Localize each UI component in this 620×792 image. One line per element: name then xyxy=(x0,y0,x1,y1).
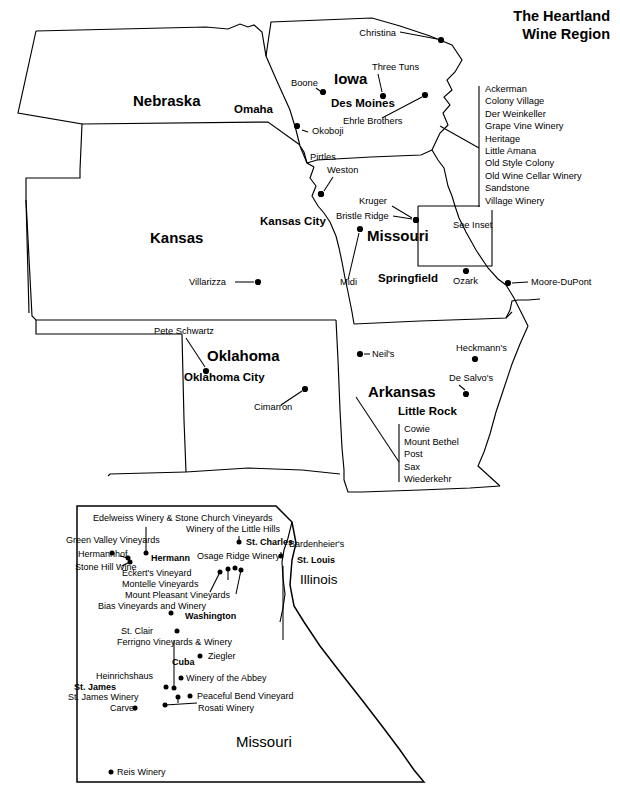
inset-winery-dot-heinrichshaus xyxy=(164,685,169,690)
inset-winery-dot-st-clair xyxy=(175,629,180,634)
winery-label-villarizza: Villarizza xyxy=(189,277,227,287)
winery-dot-weston xyxy=(318,191,324,197)
arkansas-legend-item-wiederkehr: Wiederkehr xyxy=(404,474,452,484)
inset-leader-5 xyxy=(236,570,241,594)
inset-winery-dot-eckert-s-vineyard xyxy=(226,567,231,572)
state-label-oklahoma: Oklahoma xyxy=(207,347,280,364)
inset-winery-label-bias-vineyards-and-winery: Bias Vineyards and Winery xyxy=(98,601,206,611)
see-inset-label: See Inset xyxy=(453,220,493,230)
inset-winery-label-ziegler: Ziegler xyxy=(208,651,236,661)
city-label-little-rock: Little Rock xyxy=(398,405,457,417)
inset-winery-label-carver: Carver xyxy=(110,703,137,713)
winery-label-ozark: Ozark xyxy=(453,276,478,286)
inset-winery-label-montelle-vineyards: Montelle Vineyards xyxy=(122,579,199,589)
inset-winery-label-eckert-s-vineyard: Eckert's Vineyard xyxy=(122,568,192,578)
inset-winery-dot-rosati-winery xyxy=(163,703,168,708)
inset-state-label-missouri: Missouri xyxy=(236,733,292,750)
winery-label-boone: Boone xyxy=(291,78,318,88)
leader-three-tuns xyxy=(378,74,382,92)
city-label-springfield: Springfield xyxy=(378,272,438,284)
winery-dot-okoboji xyxy=(294,123,300,129)
amana-legend-item-sandstone: Sandstone xyxy=(485,183,529,193)
winery-label-moore-dupont: Moore-DuPont xyxy=(531,277,592,287)
winery-dot-heckmann-s xyxy=(472,356,478,362)
arkansas-winery-legend: CowieMount BethelPostSaxWiederkehr xyxy=(404,424,459,484)
inset-state-labels: IllinoisMissouri xyxy=(236,572,338,750)
inset-winery-label-mount-pleasant-vineyards: Mount Pleasant Vineyards xyxy=(125,590,230,600)
inset-winery-dot-montelle-vineyards xyxy=(218,570,223,575)
arkansas-legend-bracket xyxy=(356,397,399,482)
winery-dot-midi xyxy=(357,226,363,232)
inset-winery-label-osage-ridge-winery: Osage Ridge Winery xyxy=(197,551,281,561)
map-canvas: ChristinaThree TunsBooneEhrle BrothersOk… xyxy=(0,0,620,792)
winery-label-heckmann-s: Heckmann's xyxy=(456,343,507,353)
leader-christina xyxy=(400,32,437,39)
arkansas-legend-item-mount-bethel: Mount Bethel xyxy=(404,437,459,447)
leader-moore-dupont xyxy=(512,282,528,283)
inset-winery-label-winery-of-the-abbey: Winery of the Abbey xyxy=(186,673,267,683)
winery-label-three-tuns: Three Tuns xyxy=(372,62,419,72)
winery-dot-villarizza xyxy=(255,279,261,285)
state-label-iowa: Iowa xyxy=(334,70,368,87)
amana-legend-item-der-weinkeller: Der Weinkeller xyxy=(485,109,546,119)
leader-de-salvo-s xyxy=(459,385,465,390)
map-title-line1: The Heartland xyxy=(513,8,610,24)
city-label-kansas-city: Kansas City xyxy=(260,215,326,227)
winery-dot-boone xyxy=(320,89,326,95)
leader-boone xyxy=(316,88,320,91)
amana-legend-item-heritage: Heritage xyxy=(485,134,520,144)
inset-winery-dot-st-james-winery xyxy=(176,695,181,700)
inset-city-label-washington: Washington xyxy=(185,611,236,621)
winery-dot-ehrle-brothers xyxy=(422,92,428,98)
inset-state-label-illinois: Illinois xyxy=(300,572,338,587)
state-label-arkansas: Arkansas xyxy=(368,383,436,400)
winery-label-midi: Midi xyxy=(340,277,357,287)
inset-city-label-st-louis: St. Louis xyxy=(297,555,335,565)
inset-winery-label-bardenheier-s: Bardenheier's xyxy=(289,539,345,549)
inset-winery-dot-winery-of-the-little-hills xyxy=(237,540,242,545)
amana-legend-bracket xyxy=(440,86,479,207)
state-label-missouri: Missouri xyxy=(367,227,429,244)
inset-winery-dot-edelweiss-winery-stone-church-vineyards xyxy=(144,551,149,556)
inset-winery-label-hermannhof: Hermannhof xyxy=(78,549,128,559)
winery-dot-bristle-ridge xyxy=(413,217,419,223)
inset-winery-dot-reis-winery xyxy=(109,770,114,775)
inset-winery-label-green-valley-vineyards: Green Valley Vineyards xyxy=(66,535,160,545)
inset-winery-dot-mount-pleasant-vineyards xyxy=(239,568,244,573)
inset-winery-label-peaceful-bend-vineyard: Peaceful Bend Vineyard xyxy=(197,691,293,701)
inset-winery-dot-winery-of-the-abbey xyxy=(179,676,184,681)
leader-pete-schwartz xyxy=(186,338,205,367)
inset-city-label-st-james: St. James xyxy=(74,682,116,692)
leader-weston xyxy=(324,177,333,191)
amana-legend-item-village-winery: Village Winery xyxy=(485,196,545,206)
city-label-omaha: Omaha xyxy=(234,103,274,115)
winery-label-christina: Christina xyxy=(359,28,397,38)
winery-dot-neil-s xyxy=(357,351,363,357)
city-labels: OmahaDes MoinesKansas CitySpringfieldOkl… xyxy=(184,97,457,417)
winery-dot-de-salvo-s xyxy=(463,391,469,397)
inset-winery-dot-ziegler xyxy=(198,654,203,659)
winery-label-pirtles: Pirtles xyxy=(310,152,336,162)
winery-label-neil-s: Neil's xyxy=(372,349,395,359)
inset-leader-4 xyxy=(210,572,220,592)
state-label-kansas: Kansas xyxy=(150,229,203,246)
winery-label-ehrle-brothers: Ehrle Brothers xyxy=(343,116,403,126)
amana-legend-item-old-wine-cellar-winery: Old Wine Cellar Winery xyxy=(485,171,582,181)
arkansas-legend-item-cowie: Cowie xyxy=(404,424,430,434)
winery-dot-ozark xyxy=(463,268,469,274)
city-label-oklahoma-city: Oklahoma City xyxy=(184,371,265,383)
inset-winery-label-ferrigno-vineyards-winery: Ferrigno Vineyards & Winery xyxy=(117,637,232,647)
winery-label-cimarron: Cimarron xyxy=(254,402,292,412)
amana-legend-item-ackerman: Ackerman xyxy=(485,84,527,94)
arkansas-legend-item-sax: Sax xyxy=(404,462,420,472)
winery-label-de-salvo-s: De Salvo's xyxy=(449,373,493,383)
inset-winery-label-rosati-winery: Rosati Winery xyxy=(198,703,255,713)
inset-winery-label-winery-of-the-little-hills: Winery of the Little Hills xyxy=(186,524,281,534)
amana-legend-item-little-amana: Little Amana xyxy=(485,146,537,156)
amana-winery-legend: AckermanColony VillageDer WeinkellerGrap… xyxy=(485,84,582,206)
inset-winery-label-edelweiss-winery-stone-church-vineyards: Edelweiss Winery & Stone Church Vineyard… xyxy=(93,513,273,523)
inset-winery-dot-peaceful-bend-vineyard xyxy=(188,694,193,699)
inset-winery-dot-bias-vineyards-and-winery xyxy=(169,611,174,616)
amana-legend-item-colony-village: Colony Village xyxy=(485,96,544,106)
winery-label-pete-schwartz: Pete Schwartz xyxy=(154,326,214,336)
